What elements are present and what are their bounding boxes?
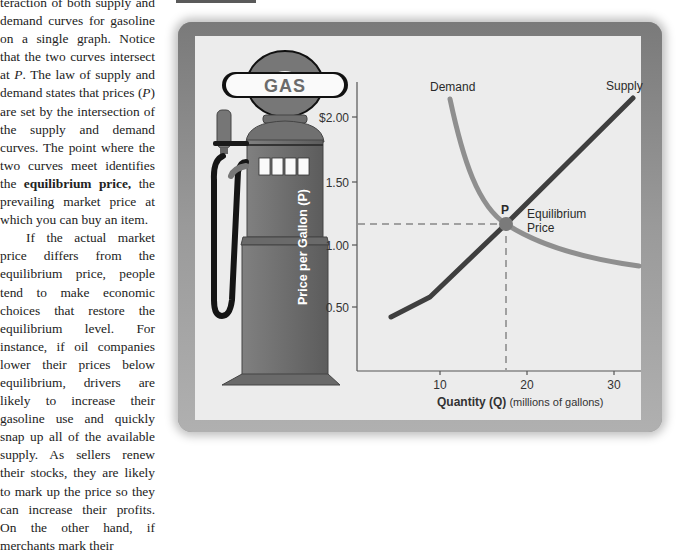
- pump-base: [222, 374, 340, 385]
- y-tick-label: 0.50: [326, 301, 350, 315]
- point-p-label: P: [501, 203, 509, 217]
- supply-label: Supply: [606, 79, 643, 93]
- pump-upper-body: [247, 140, 323, 237]
- pump-lower-body: [242, 245, 328, 377]
- supply-curve: [391, 98, 633, 317]
- x-axis-title-main: Quantity (Q): [437, 395, 506, 409]
- display-cell: [298, 158, 309, 175]
- hose: [214, 156, 246, 316]
- equilibrium-label-line2: Price: [527, 221, 555, 235]
- y-axis-title: Price per Gallon (P): [296, 189, 310, 305]
- equilibrium-point: [499, 217, 513, 231]
- x-tick-label: 30: [607, 378, 621, 392]
- demand-label: Demand: [430, 80, 475, 94]
- y-tick-label: $2.00: [319, 111, 349, 125]
- display-cell: [285, 158, 296, 175]
- display-cell: [259, 158, 270, 175]
- axes: [352, 82, 641, 375]
- y-tick-label: 1.50: [326, 176, 350, 190]
- x-tick-label: 10: [433, 378, 447, 392]
- x-axis-title-note: (millions of gallons): [506, 396, 603, 408]
- gas-pump-illustration: GAS Price per Gallon (P): [213, 51, 348, 385]
- y-tick-label: 1.00: [326, 239, 350, 253]
- gas-sign-label: GAS: [264, 76, 306, 96]
- display-cell: [272, 158, 283, 175]
- x-axis-title: Quantity (Q) (millions of gallons): [437, 395, 604, 409]
- x-tick-label: 20: [520, 378, 534, 392]
- equilibrium-label-line1: Equilibrium: [527, 207, 586, 221]
